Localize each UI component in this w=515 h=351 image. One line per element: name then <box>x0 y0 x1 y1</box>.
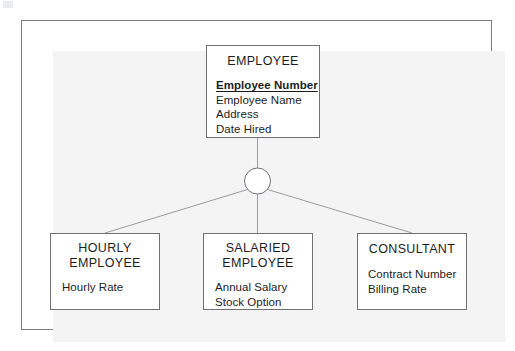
entity-consultant-attributes: Contract Number Billing Rate <box>368 267 466 296</box>
attribute-date-hired: Date Hired <box>216 122 319 137</box>
attribute-annual-salary: Annual Salary <box>215 280 312 295</box>
diagram-canvas: EMPLOYEE Employee Number Employee Name A… <box>0 0 515 351</box>
attribute-employee-number: Employee Number <box>216 78 319 93</box>
entity-salaried-employee-title: SALARIED EMPLOYEE <box>204 241 312 271</box>
entity-salaried-employee-attributes: Annual Salary Stock Option <box>215 280 312 309</box>
scan-artifact <box>3 1 13 8</box>
entity-hourly-employee-title: HOURLY EMPLOYEE <box>51 241 159 271</box>
entity-employee[interactable]: EMPLOYEE Employee Number Employee Name A… <box>206 45 320 138</box>
entity-employee-title: EMPLOYEE <box>207 54 319 69</box>
entity-salaried-employee[interactable]: SALARIED EMPLOYEE Annual Salary Stock Op… <box>203 233 313 310</box>
attribute-employee-name: Employee Name <box>216 93 319 108</box>
entity-employee-attributes: Employee Number Employee Name Address Da… <box>216 78 319 136</box>
attribute-stock-option: Stock Option <box>215 295 312 310</box>
entity-consultant-title: CONSULTANT <box>358 242 466 257</box>
entity-hourly-employee[interactable]: HOURLY EMPLOYEE Hourly Rate <box>50 233 160 310</box>
entity-hourly-employee-attributes: Hourly Rate <box>62 280 159 295</box>
attribute-address: Address <box>216 107 319 122</box>
attribute-hourly-rate: Hourly Rate <box>62 280 159 295</box>
entity-consultant[interactable]: CONSULTANT Contract Number Billing Rate <box>357 233 467 310</box>
attribute-contract-number: Contract Number <box>368 267 466 282</box>
attribute-billing-rate: Billing Rate <box>368 282 466 297</box>
